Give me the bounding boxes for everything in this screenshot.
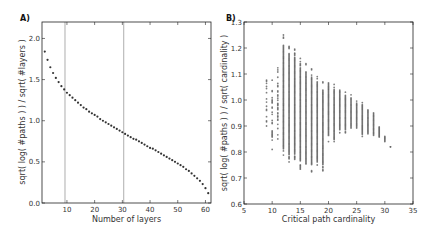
data-point [294,48,296,50]
data-point [316,76,318,78]
data-point [132,138,134,140]
data-point [196,177,198,179]
data-point [94,114,96,116]
data-point [202,183,204,185]
data-point [271,106,273,108]
data-point [266,86,268,88]
data-point [91,112,93,114]
x-tick-label: 40 [146,206,155,214]
x-tick-label: 10 [62,206,71,214]
data-point [316,81,318,83]
y-tick-label: 1.2 [231,45,242,53]
y-tick-label: 0.7 [231,175,242,183]
data-point [160,153,162,155]
data-point [271,122,273,124]
data-point [339,89,341,91]
y-tick-label: 0.8 [231,149,242,157]
data-point [283,150,285,152]
x-tick-label: 35 [409,207,418,215]
data-point [316,164,318,166]
data-point [299,164,301,166]
panel-a-y-ticks: 0.00.51.01.52.0 [29,35,211,208]
panel-a-y-axis-label: sqrt( log( #paths ) ) / sqrt( #layers ) [18,39,27,184]
data-point [179,164,181,166]
data-point [361,136,363,138]
data-point [277,128,279,130]
data-point [74,99,76,101]
data-point [271,97,273,99]
data-point [138,140,140,142]
data-point [299,63,301,65]
data-point [58,81,60,83]
panel-a-label: A) [20,14,30,23]
data-point [294,155,296,157]
data-point [384,136,386,138]
data-point [350,94,352,96]
panel-b-x-ticks: 5101520253035 [242,22,418,215]
data-point [266,82,268,84]
data-point [266,125,268,127]
panel-b-chart: B) 5101520253035 0.60.70.80.91.01.11.21.… [220,14,417,224]
x-tick-label: 30 [380,207,389,215]
data-point [316,78,318,80]
data-point [271,90,273,92]
data-point [66,92,68,94]
data-point [102,120,104,122]
data-point [154,149,156,151]
panel-b-data-points [266,34,392,173]
data-point [271,79,273,81]
data-point [82,106,84,108]
data-point [199,180,201,182]
data-point [288,161,290,163]
data-point [277,69,279,71]
data-point [277,107,279,109]
data-point [193,175,195,177]
data-point [311,68,313,70]
y-tick-label: 0.9 [231,123,242,131]
data-point [333,84,335,86]
data-point [277,112,279,114]
data-point [60,85,62,87]
data-point [71,97,73,99]
panel-a-reference-lines [65,22,124,203]
data-point [113,126,115,128]
data-point [277,67,279,69]
data-point [152,148,154,150]
data-point [163,154,165,156]
data-point [166,156,168,158]
data-point [378,126,380,128]
data-point [328,82,330,84]
data-point [277,97,279,99]
y-tick-label: 1.3 [231,19,242,27]
data-point [266,105,268,107]
data-point [46,59,48,61]
data-point [390,146,392,148]
data-point [121,131,123,133]
data-point [277,99,279,101]
data-point [311,76,313,78]
y-tick-label: 0.0 [29,200,40,208]
panel-a-frame [42,22,211,203]
data-point [63,88,65,90]
data-point [130,136,132,138]
data-point [88,111,90,113]
data-point [294,56,296,58]
data-point [52,72,54,74]
data-point [143,143,145,145]
data-point [266,101,268,103]
data-point [204,187,206,189]
data-point [299,58,301,60]
data-point [322,89,324,91]
x-tick-label: 30 [118,206,127,214]
data-point [294,52,296,54]
data-point [356,102,358,104]
data-point [305,63,307,65]
data-point [299,67,301,69]
panel-b-y-axis-label: sqrt( log( #paths ) ) / sqrt( cardinalit… [220,35,229,191]
panel-b-x-axis-label: Critical path cardinality [282,215,376,224]
data-point [277,94,279,96]
panel-a-chart: A) 102030405060 0.00.51.01.52.0 Number o… [18,14,211,224]
data-point [277,83,279,85]
data-point [373,112,375,114]
y-tick-label: 0.6 [231,201,243,209]
